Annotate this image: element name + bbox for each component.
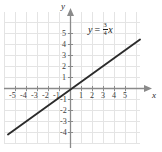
y-tick-label-1: 1 — [62, 74, 66, 82]
x-tick-label--1: -1 — [53, 92, 60, 100]
fraction-numerator: 3 — [103, 22, 108, 29]
y-tick-label-3: 3 — [62, 52, 66, 60]
y-tick-label-2: 2 — [62, 63, 66, 71]
graph-canvas — [0, 0, 162, 152]
x-tick-label-5: 5 — [123, 92, 127, 100]
line-series-y-equals-three-quarters-x — [8, 40, 140, 135]
equation-relation: = — [94, 25, 100, 35]
x-axis-label: x — [152, 91, 156, 100]
y-tick-label-5: 5 — [62, 30, 66, 38]
y-tick-label--4: -4 — [60, 129, 67, 137]
x-tick-label--4: -4 — [20, 92, 27, 100]
y-tick-label-4: 4 — [62, 41, 66, 49]
y-tick-label--3: -3 — [60, 118, 67, 126]
x-tick-label--5: -5 — [9, 92, 16, 100]
y-tick-label--1: -1 — [60, 96, 67, 104]
equation-variable: x — [108, 25, 112, 35]
x-tick-label-1: 1 — [79, 92, 83, 100]
x-tick-label-2: 2 — [90, 92, 94, 100]
grid-lines-horizontal — [4, 23, 140, 144]
coordinate-plane-figure: -5 -4 -3 -2 -1 1 2 3 4 5 5 4 3 2 1 -1 -2… — [0, 0, 162, 152]
equation-annotation: y = 3 4 x — [88, 22, 113, 37]
x-tick-label--3: -3 — [31, 92, 38, 100]
x-tick-label-3: 3 — [101, 92, 105, 100]
equation-lhs: y — [88, 25, 92, 35]
equation-fraction: 3 4 — [103, 22, 108, 37]
fraction-denominator: 4 — [103, 30, 108, 37]
y-tick-label--2: -2 — [60, 107, 67, 115]
x-tick-label-4: 4 — [112, 92, 116, 100]
y-axis-label: y — [61, 2, 65, 11]
x-tick-label--2: -2 — [42, 92, 49, 100]
